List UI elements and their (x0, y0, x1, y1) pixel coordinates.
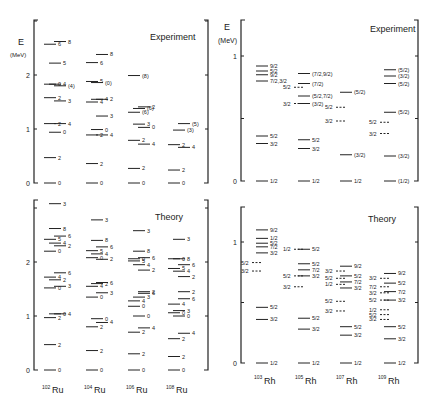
spin-label: 5/2 (325, 104, 333, 110)
spin-label: 4 (192, 330, 195, 336)
rh-axis-label-e: E (224, 22, 230, 32)
spin-label: 0 (187, 313, 190, 319)
spin-label: 5 (182, 265, 185, 271)
spin-label: 3/2 (354, 285, 362, 291)
spin-label: 5/2 (354, 324, 362, 330)
spin-label: 3/2 (369, 290, 377, 296)
right-axis-bracket (414, 20, 418, 181)
spin-label: (5/2,7/2) (312, 93, 333, 99)
ru-symbol-1: Ru (94, 385, 106, 395)
spin-label: 2 (142, 329, 145, 335)
spin-label: (7/2) (312, 81, 323, 87)
spin-label: 4 (187, 268, 190, 274)
rh-th-tick-1: 1 (233, 239, 237, 246)
spin-label: 1/2 (325, 281, 333, 287)
spin-label: 0 (100, 367, 103, 373)
spin-label: 6 (192, 262, 195, 268)
spin-label: 0 (58, 248, 61, 254)
spin-label: 5 (100, 248, 103, 254)
spin-label: 5/2 (369, 297, 377, 303)
spin-label: 4 (152, 141, 155, 147)
spin-label: 4 (58, 274, 61, 280)
spin-label: 4 (100, 99, 103, 105)
spin-label: 3/2 (312, 326, 320, 332)
energy-levels: 02420324(4)05860242034425(0)86024230(6)(… (34, 20, 418, 373)
spin-label: 5/2 (312, 261, 320, 267)
ru-symbol-3: Ru (176, 385, 188, 395)
spin-label: 6 (110, 280, 113, 286)
spin-label: (1/2) (398, 178, 409, 184)
spin-label: 0 (58, 81, 61, 87)
spin-label: 8 (110, 51, 113, 57)
spin-label: 0 (182, 256, 185, 262)
spin-label: 0 (182, 310, 185, 316)
spin-label: 3/2 (270, 250, 278, 256)
spin-label: 2 (58, 155, 61, 161)
spin-label: 6 (68, 233, 71, 239)
ru-nuclei-labels: 102 Ru 104 Ru 106 Ru 108 Ru (42, 384, 188, 395)
spin-label: 0 (142, 303, 145, 309)
spin-label: (3/2) (398, 73, 409, 79)
spin-label: 2 (100, 324, 103, 330)
spin-label: 6 (68, 270, 71, 276)
spin-label: 3/2 (398, 297, 406, 303)
spin-label: 3 (187, 308, 190, 314)
spin-label: 9/2 (354, 263, 362, 269)
spin-label: 2 (105, 281, 108, 287)
left-axis-bracket (34, 20, 38, 183)
ru-axis-label-e: E (18, 37, 24, 47)
spin-label: (4) (68, 83, 75, 89)
spin-label: 7/2 (398, 289, 406, 295)
rh-mass-3: 109 (378, 374, 387, 380)
spin-label: 5/2 (312, 246, 320, 252)
spin-label: 3 (68, 98, 71, 104)
spin-label: 0 (142, 180, 145, 186)
spin-label: 4 (100, 283, 103, 289)
spin-label: (0) (105, 80, 112, 86)
spin-label: 7/2 (312, 267, 320, 273)
ru-th-tick-1: 1 (26, 313, 30, 320)
spin-label: 9/2 (270, 227, 278, 233)
spin-label: 0 (63, 311, 66, 317)
spin-label: 0 (142, 256, 145, 262)
spin-label: 2 (58, 121, 61, 127)
spin-label: 5/2 (369, 119, 377, 125)
spin-label: 5/2 (283, 273, 291, 279)
spin-label: (3/2) (398, 153, 409, 159)
spin-label: 2 (58, 315, 61, 321)
spin-label: 2 (182, 142, 185, 148)
rh-nuclei-labels: 103 Rh 105 Rh 107 Rh 109 Rh (254, 374, 400, 386)
ru-symbol-2: Ru (136, 385, 148, 395)
rh-axis-label-unit: (MeV) (218, 37, 237, 45)
spin-label: (5/2) (398, 81, 409, 87)
ru-mass-2: 106 (126, 384, 135, 390)
spin-label: 2 (68, 243, 71, 249)
spin-label: (5) (192, 121, 199, 127)
spin-label: 3 (110, 290, 113, 296)
level-scheme-figure: E (MeV) Experiment 0 1 2 Theory 0 1 2 10… (0, 0, 433, 404)
spin-label: 4 (152, 325, 155, 331)
rh-exp-tick-0: 0 (233, 178, 237, 185)
spin-label: 0 (182, 367, 185, 373)
spin-label: 3/2 (325, 118, 333, 124)
spin-label: 3 (147, 228, 150, 234)
spin-label: 6 (58, 41, 61, 47)
spin-label: 8 (68, 39, 71, 45)
spin-label: 0 (100, 255, 103, 261)
spin-label: 3/2 (241, 268, 249, 274)
spin-label: (8) (142, 73, 149, 79)
spin-label: 1/2 (354, 178, 362, 184)
ru-mass-1: 104 (84, 384, 93, 390)
spin-label: 2 (152, 267, 155, 273)
rh-symbol-2: Rh (346, 376, 358, 386)
spin-label: 0 (147, 313, 150, 319)
spin-label: 2 (182, 167, 185, 173)
spin-label: 0 (182, 180, 185, 186)
spin-label: 2 (58, 95, 61, 101)
spin-label: 3/2 (325, 308, 333, 314)
ru-mass-3: 108 (166, 384, 175, 390)
spin-label: 8 (147, 248, 150, 254)
spin-label: 6 (100, 60, 103, 66)
rh-theory-title: Theory (368, 214, 397, 224)
ru-theory-title: Theory (155, 212, 184, 222)
